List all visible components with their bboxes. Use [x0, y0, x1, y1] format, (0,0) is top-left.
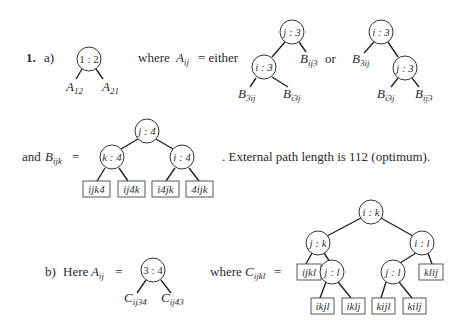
edge: [121, 139, 138, 149]
node-label: j : l: [383, 266, 400, 278]
node-label: 1 : 2: [79, 53, 99, 65]
node-label: j : 4: [136, 125, 156, 137]
edge: [189, 168, 199, 181]
edge: [272, 42, 285, 57]
Cijkl-symbol: Cijkl: [245, 264, 266, 281]
edge: [381, 218, 413, 236]
equals-either-text: = either: [198, 50, 239, 65]
node-label: k : 4: [102, 151, 122, 163]
equals-sign: =: [115, 264, 122, 279]
node-label: i : l: [414, 237, 429, 249]
leaf-Cij43: Cij43: [161, 290, 184, 307]
equals-sign: =: [72, 149, 79, 164]
here-text: Here: [63, 264, 88, 279]
edge: [137, 280, 146, 293]
leaf-Cij34: Cij34: [124, 290, 147, 307]
edge: [391, 78, 398, 87]
equals-sign: =: [274, 264, 281, 279]
node-label: j : 3: [281, 26, 301, 38]
exercise-number: 1.: [26, 50, 36, 65]
leaf-label: ij4k: [123, 183, 141, 195]
leaf-Bi3j: Bi3j: [283, 86, 301, 103]
path-length-sentence: . External path length is 112 (optimum).: [222, 149, 430, 164]
edge: [119, 168, 128, 181]
leaf-label: ikjl: [315, 300, 329, 312]
edge: [381, 282, 386, 298]
edge: [320, 282, 326, 298]
node-label: i : 3: [372, 26, 390, 38]
leaf-label: i4jk: [157, 183, 175, 195]
leaf-A12: A12: [65, 79, 83, 96]
edge: [250, 78, 256, 87]
edge: [388, 42, 398, 57]
Aij-symbol: Aij: [90, 264, 104, 281]
node-label: j : l: [322, 266, 339, 278]
edge: [400, 253, 416, 263]
and-text: and: [22, 149, 41, 164]
edge: [428, 253, 432, 264]
exercise-answer-figure: 1. a) 1 : 2 A12 A21 where Aij = either j…: [0, 0, 465, 336]
Aij-symbol: Aij: [175, 50, 189, 67]
node-label: i : 3: [255, 61, 273, 73]
edge: [166, 168, 175, 181]
edge: [338, 282, 351, 298]
leaf-label: kilj: [407, 300, 421, 312]
leaf-Bij3: Bij3: [300, 51, 318, 68]
edge: [399, 282, 412, 298]
node-label: j : 3: [394, 62, 414, 74]
leaf-label: 4ijk: [191, 183, 209, 195]
edge: [76, 69, 82, 79]
leaf-label: klij: [424, 266, 438, 278]
node-label: i : k: [362, 206, 380, 218]
leaf-label: kijl: [376, 300, 390, 312]
leaf-Bi3j: Bi3j: [377, 86, 395, 103]
node-label: 3 : 4: [143, 264, 163, 276]
or-text: or: [325, 51, 337, 66]
leaf-label: iklj: [346, 300, 360, 312]
leaf-label: ijk4: [88, 183, 105, 195]
subpart-b-label: b): [45, 264, 56, 279]
subpart-a-label: a): [44, 50, 54, 65]
leaf-Bij3: Bij3: [415, 86, 433, 103]
leaf-B3ij: B3ij: [238, 86, 256, 103]
edge: [96, 69, 103, 79]
Bijk-symbol: Bijk: [45, 149, 63, 166]
edge: [97, 168, 105, 181]
edge: [327, 218, 361, 236]
edge: [364, 42, 374, 53]
where-text: where: [138, 50, 170, 65]
where-text: where: [210, 264, 242, 279]
node-label: j : k: [307, 237, 327, 249]
edge: [156, 139, 173, 149]
edge: [306, 253, 312, 264]
leaf-A21: A21: [101, 79, 119, 96]
node-label: i : 4: [173, 151, 191, 163]
leaf-B3ij: B3ij: [352, 51, 370, 68]
leaf-label: ijkl: [302, 266, 316, 278]
